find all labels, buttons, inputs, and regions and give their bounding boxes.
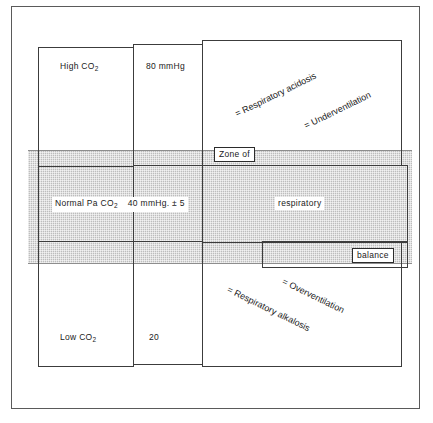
label-balance: balance — [352, 248, 394, 263]
label-normal-paco2-subscript: 2 — [114, 202, 118, 209]
label-high-co2-text: High CO — [60, 61, 95, 71]
column-20-mmhg — [133, 241, 203, 365]
label-low-co2: Low CO2 — [57, 331, 99, 346]
label-20-mmhg: 20 — [146, 331, 162, 344]
label-respiratory: respiratory — [275, 197, 324, 210]
label-normal-paco2: Normal Pa CO240 mmHg. ± 5 — [52, 197, 188, 212]
label-normal-paco2-value: 40 mmHg. ± 5 — [128, 198, 185, 208]
label-normal-paco2-text: Normal Pa CO — [55, 198, 114, 208]
label-80-mmhg: 80 mmHg — [143, 60, 188, 73]
label-zone-of: Zone of — [214, 147, 255, 162]
label-low-co2-text: Low CO — [60, 332, 93, 342]
column-low-co2 — [38, 241, 134, 367]
diagram-stage: High CO2 80 mmHg Normal Pa CO240 mmHg. ±… — [0, 0, 433, 423]
label-high-co2: High CO2 — [57, 60, 102, 75]
label-high-co2-subscript: 2 — [95, 65, 99, 72]
label-low-co2-subscript: 2 — [93, 336, 97, 343]
